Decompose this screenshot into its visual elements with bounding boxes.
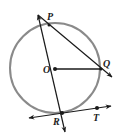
- label-t: T: [93, 112, 100, 123]
- label-r: R: [52, 116, 60, 127]
- point-r: [60, 111, 64, 115]
- point-p: [48, 24, 51, 27]
- label-p: P: [47, 11, 54, 22]
- label-q: Q: [103, 58, 110, 69]
- label-o: O: [43, 64, 50, 75]
- geometry-diagram: P O Q R T: [0, 0, 123, 135]
- point-o: [53, 67, 57, 71]
- point-t: [95, 106, 99, 110]
- diagram-svg: P O Q R T: [0, 0, 123, 135]
